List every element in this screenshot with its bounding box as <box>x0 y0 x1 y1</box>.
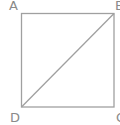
vertex-label-c: C <box>116 110 120 125</box>
vertex-label-d: D <box>10 110 20 125</box>
vertex-label-a: A <box>9 0 18 13</box>
diagonal-BD <box>22 14 115 108</box>
square-diagram: A B C D <box>0 0 120 125</box>
vertex-label-b: B <box>115 0 120 13</box>
